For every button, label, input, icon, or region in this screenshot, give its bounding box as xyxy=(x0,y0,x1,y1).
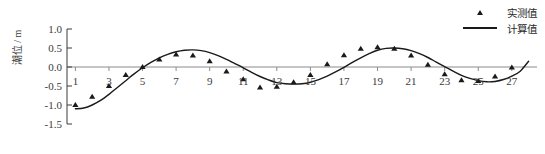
chart-legend: 实测值 计算值 xyxy=(459,4,537,36)
x-tick-label: 3 xyxy=(106,75,112,87)
x-tick-label: 1 xyxy=(73,75,79,87)
tide-level-chart: 潮位 / m 1.0 0.5 0.0 -0.5 -1.0 -1.5 135791… xyxy=(0,0,545,154)
x-tick-label: 23 xyxy=(439,75,450,87)
legend-item-calculated: 计算值 xyxy=(459,20,537,36)
triangle-marker-icon xyxy=(459,5,501,19)
x-tick-label: 27 xyxy=(506,75,517,87)
x-tick-label: 19 xyxy=(372,75,383,87)
x-tick-label: 21 xyxy=(406,75,417,87)
line-marker-icon xyxy=(459,21,501,35)
x-tick-label: 13 xyxy=(271,75,282,87)
x-tick-label: 7 xyxy=(173,75,179,87)
x-tick-label: 5 xyxy=(140,75,146,87)
legend-label: 实测值 xyxy=(501,5,537,20)
legend-label: 计算值 xyxy=(501,21,537,36)
x-tick-label: 17 xyxy=(338,75,349,87)
legend-item-measured: 实测值 xyxy=(459,4,537,20)
x-tick-label: 11 xyxy=(238,75,249,87)
x-tick-label: 15 xyxy=(305,75,316,87)
x-tick-label: 9 xyxy=(207,75,213,87)
x-tick-label: 25 xyxy=(473,75,484,87)
